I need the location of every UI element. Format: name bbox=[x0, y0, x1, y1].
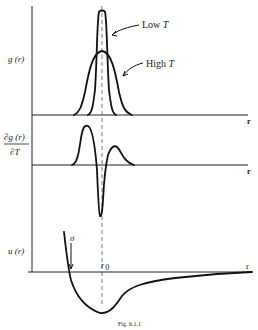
dgdT-xlabel-r: r bbox=[247, 167, 251, 176]
dgdT-ylabel-denominator: ∂T bbox=[10, 147, 20, 157]
u-ylabel: u (r) bbox=[8, 246, 24, 256]
sigma-label: σ bbox=[70, 233, 75, 243]
high-T-label: High T bbox=[146, 58, 176, 69]
low-T-arrow bbox=[112, 25, 139, 35]
high-T-arrow bbox=[123, 63, 143, 76]
high-T-curve bbox=[74, 51, 132, 115]
figure-caption: Fig. 6.1.1 bbox=[118, 321, 141, 327]
panel-dg-dT: ∂g (r) ∂T r bbox=[4, 126, 251, 217]
g-ylabel: g (r) bbox=[8, 54, 24, 64]
r0-label: r0 bbox=[101, 261, 109, 272]
g-xlabel-r: r bbox=[247, 117, 251, 126]
panel-g-of-r: Low T High T g (r) r bbox=[8, 11, 251, 127]
potential-curve bbox=[64, 232, 252, 313]
panel-u-of-r: σ r0 u (r) r bbox=[8, 232, 252, 313]
low-T-label: Low T bbox=[142, 19, 170, 30]
dgdT-ylabel-numerator: ∂g (r) bbox=[4, 132, 25, 142]
figure-canvas: Low T High T g (r) r ∂g (r) ∂T r σ r0 u … bbox=[0, 0, 258, 330]
u-xlabel-r: r bbox=[246, 261, 249, 271]
dgdT-curve bbox=[72, 126, 134, 217]
